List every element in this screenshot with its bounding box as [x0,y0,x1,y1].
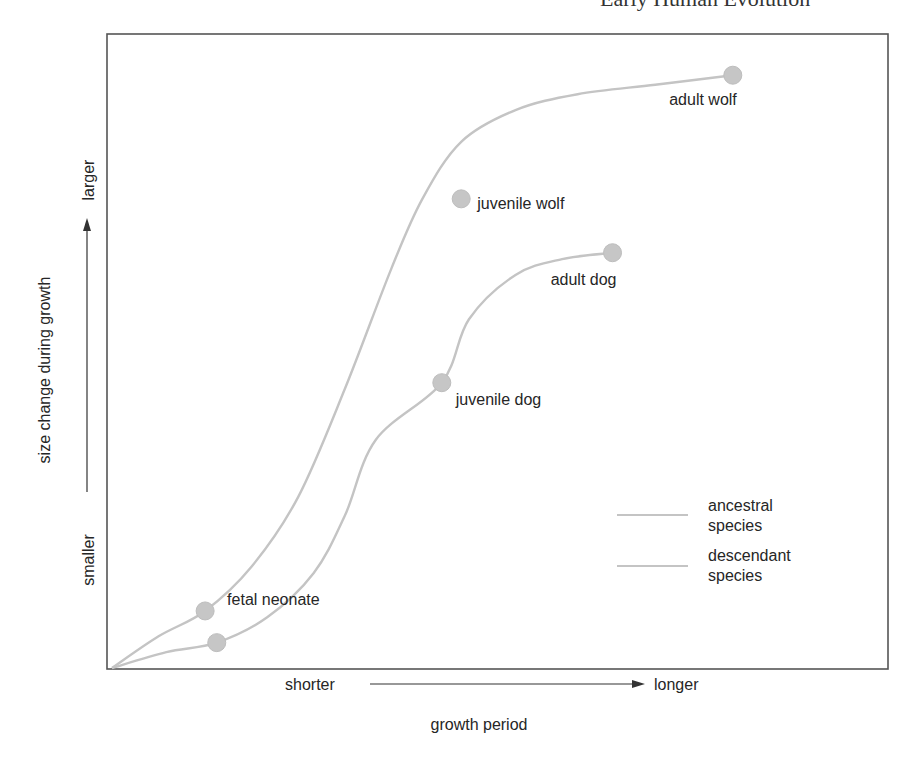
legend: ancestral species descendant species [617,497,791,584]
y-axis-arrowhead-icon [83,218,91,231]
point-label-fetal-neonate: fetal neonate [227,591,320,608]
data-point-fetal-neonate [196,602,214,620]
legend-label-ancestral-2: species [708,517,762,534]
legend-label-descendant-1: descendant [708,547,791,564]
point-label-adult-dog: adult dog [551,271,617,288]
y-axis-high-label: larger [80,159,97,201]
x-axis-high-label: longer [654,676,699,693]
series-curves [112,75,733,668]
data-point-juvenile-wolf [452,190,470,208]
x-axis-title: growth period [431,716,528,733]
data-point-adult-dog [604,244,622,262]
series-line-descendant [112,253,613,668]
point-label-adult-wolf: adult wolf [669,91,737,108]
legend-label-ancestral-1: ancestral [708,497,773,514]
y-axis-low-label: smaller [80,534,97,586]
point-label-juvenile-dog: juvenile dog [455,391,541,408]
chart: Early Human Evolution fetal neonatejuven… [0,0,912,762]
x-axis-arrowhead-icon [632,680,645,688]
legend-label-descendant-2: species [708,567,762,584]
data-point-series1-point0 [208,634,226,652]
series-line-ancestral [112,75,733,668]
point-labels: fetal neonatejuvenile wolfadult wolfjuve… [227,91,737,608]
data-point-adult-wolf [724,66,742,84]
plot-frame [107,34,888,669]
x-axis-low-label: shorter [285,676,335,693]
series-points [196,66,742,651]
page-header-cropped: Early Human Evolution [600,0,810,11]
point-label-juvenile-wolf: juvenile wolf [476,195,565,212]
y-axis-title: size change during growth [36,277,53,464]
data-point-juvenile-dog [433,374,451,392]
